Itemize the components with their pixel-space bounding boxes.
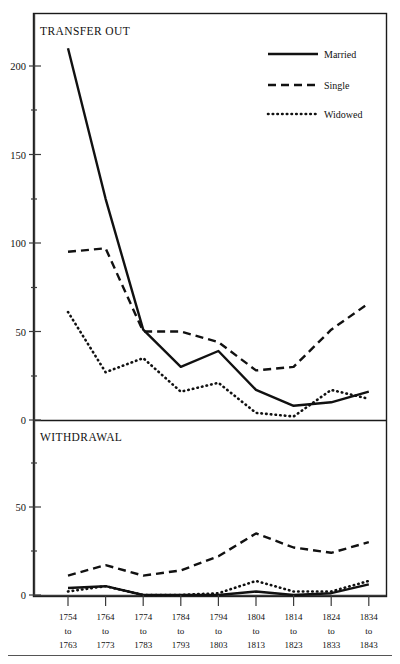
svg-text:1834: 1834	[360, 612, 379, 622]
svg-text:to: to	[102, 626, 110, 636]
ytick-bottom-50: 50	[16, 502, 27, 513]
svg-text:1784: 1784	[172, 612, 191, 622]
ytick-top-0: 0	[21, 415, 26, 426]
svg-text:1794: 1794	[209, 612, 228, 622]
xtick-label-6: 1814 to 1823	[285, 612, 304, 650]
plot-frame	[34, 14, 387, 597]
svg-text:1803: 1803	[209, 640, 228, 650]
ytick-top-50: 50	[16, 327, 27, 338]
legend-label-widowed: Widowed	[324, 109, 362, 120]
xtick-label-3: 1784 to 1793	[172, 612, 191, 650]
legend: Married Single Widowed	[268, 49, 362, 120]
svg-text:to: to	[215, 626, 223, 636]
svg-text:1813: 1813	[247, 640, 266, 650]
svg-text:1824: 1824	[322, 612, 341, 622]
svg-text:1764: 1764	[97, 612, 116, 622]
series-single-withdrawal	[68, 533, 369, 575]
svg-text:to: to	[365, 626, 373, 636]
chart-figure: TRANSFER OUT 200 150 100 50 0	[0, 0, 400, 664]
svg-text:to: to	[140, 626, 148, 636]
svg-text:1804: 1804	[247, 612, 266, 622]
svg-text:1823: 1823	[285, 640, 304, 650]
x-tick-labels: 1754 to 1763 1764 to 1773 1774 to 1783 1…	[59, 612, 378, 650]
panel-withdrawal: WITHDRAWAL 50 0	[16, 431, 379, 650]
svg-text:1814: 1814	[285, 612, 304, 622]
svg-text:to: to	[177, 626, 185, 636]
xtick-label-4: 1794 to 1803	[209, 612, 228, 650]
xtick-label-8: 1834 to 1843	[360, 612, 379, 650]
svg-text:1843: 1843	[360, 640, 379, 650]
series-married-transfer-out	[68, 48, 369, 406]
xtick-label-0: 1754 to 1763	[59, 612, 78, 650]
xtick-label-7: 1824 to 1833	[322, 612, 341, 650]
svg-text:1833: 1833	[322, 640, 341, 650]
svg-text:1763: 1763	[59, 640, 78, 650]
svg-text:to: to	[252, 626, 260, 636]
svg-text:to: to	[290, 626, 298, 636]
legend-label-married: Married	[324, 49, 356, 60]
svg-text:1754: 1754	[59, 612, 78, 622]
panel-title-withdrawal: WITHDRAWAL	[40, 431, 122, 443]
chart-svg: TRANSFER OUT 200 150 100 50 0	[0, 0, 400, 664]
svg-text:1774: 1774	[134, 612, 153, 622]
svg-text:to: to	[328, 626, 336, 636]
ytick-top-100: 100	[10, 238, 26, 249]
panel-title-transfer-out: TRANSFER OUT	[40, 25, 130, 37]
svg-text:1773: 1773	[97, 640, 116, 650]
panel-transfer-out: TRANSFER OUT 200 150 100 50 0	[10, 25, 369, 426]
series-widowed-transfer-out	[68, 312, 369, 417]
ytick-top-150: 150	[10, 150, 26, 161]
ytick-top-200: 200	[10, 61, 26, 72]
xtick-label-2: 1774 to 1783	[134, 612, 153, 650]
xtick-label-5: 1804 to 1813	[247, 612, 266, 650]
legend-label-single: Single	[324, 80, 350, 91]
svg-text:1783: 1783	[134, 640, 153, 650]
ytick-bottom-0: 0	[21, 590, 26, 601]
xtick-label-1: 1764 to 1773	[97, 612, 116, 650]
svg-text:to: to	[64, 626, 72, 636]
svg-text:1793: 1793	[172, 640, 191, 650]
